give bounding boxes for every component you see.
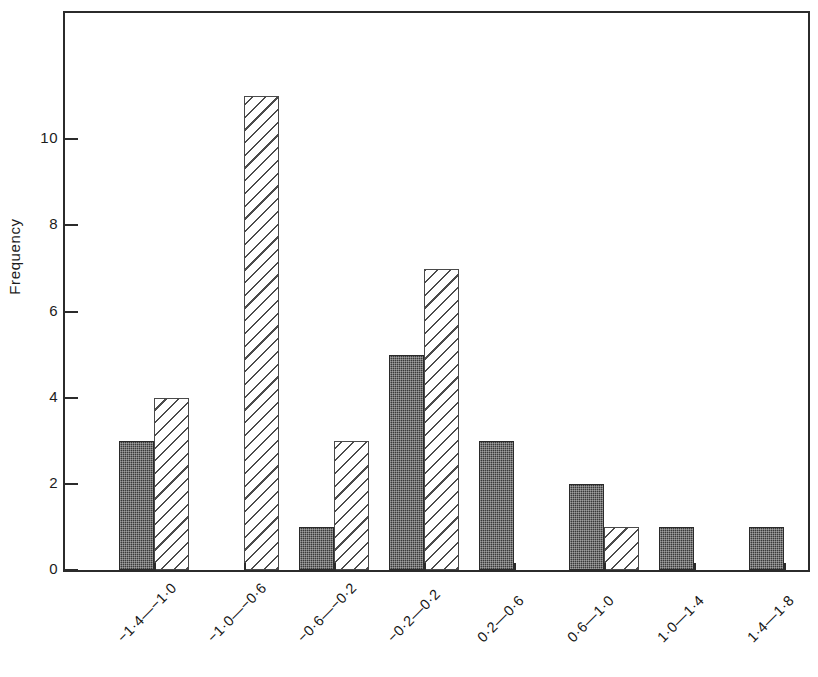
bar-solid-stippled-5	[569, 484, 604, 570]
bar-diagonal-hatched-5	[604, 527, 639, 570]
y-tick-mark	[65, 397, 78, 399]
y-tick-label: 4	[49, 387, 58, 406]
x-category-label-1: −1·0—−0·6	[204, 580, 270, 646]
y-tick-mark	[65, 569, 78, 571]
y-tick-label: 10	[40, 128, 58, 147]
y-tick-label: 6	[49, 301, 58, 320]
x-tick-3	[424, 563, 426, 571]
bar-solid-stippled-4	[479, 441, 514, 570]
x-category-label-0: −1·4—−1·0	[114, 580, 180, 646]
y-tick-mark	[65, 311, 78, 313]
x-category-label-6: 1·0—1·4	[654, 592, 708, 646]
bar-diagonal-hatched-3	[424, 269, 459, 570]
plot-area: 0246810	[63, 11, 810, 572]
bar-solid-stippled-2	[299, 527, 334, 570]
x-tick-0	[154, 563, 156, 571]
bar-diagonal-hatched-0	[154, 398, 189, 570]
x-tick-5	[604, 563, 606, 571]
bar-solid-stippled-7	[749, 527, 784, 570]
bar-solid-stippled-0	[119, 441, 154, 570]
y-tick-label: 0	[49, 559, 58, 578]
y-tick-mark	[65, 483, 78, 485]
bar-solid-stippled-3	[389, 355, 424, 570]
bar-diagonal-hatched-1	[244, 96, 279, 570]
x-tick-6	[694, 563, 696, 571]
bar-solid-stippled-6	[659, 527, 694, 570]
y-tick-mark	[65, 138, 78, 140]
bar-diagonal-hatched-2	[334, 441, 369, 570]
y-tick-label: 8	[49, 214, 58, 233]
y-tick-mark	[65, 224, 78, 226]
x-category-label-5: 0·6—1·0	[564, 592, 618, 646]
x-category-label-2: −0·6—−0·2	[294, 580, 360, 646]
x-category-label-4: 0·2—0·6	[474, 592, 528, 646]
histogram-figure: Frequency 0246810 −1·4—−1·0−1·0—−0·6−0·6…	[0, 0, 818, 677]
y-tick-label: 2	[49, 473, 58, 492]
x-tick-4	[514, 563, 516, 571]
x-tick-7	[784, 563, 786, 571]
x-tick-2	[334, 563, 336, 571]
y-axis-label: Frequency	[6, 207, 23, 307]
x-tick-1	[244, 563, 246, 571]
cropped-caption-remnant	[250, 660, 610, 672]
x-category-label-7: 1·4—1·8	[744, 592, 798, 646]
x-category-label-3: −0·2—0·2	[384, 586, 444, 646]
